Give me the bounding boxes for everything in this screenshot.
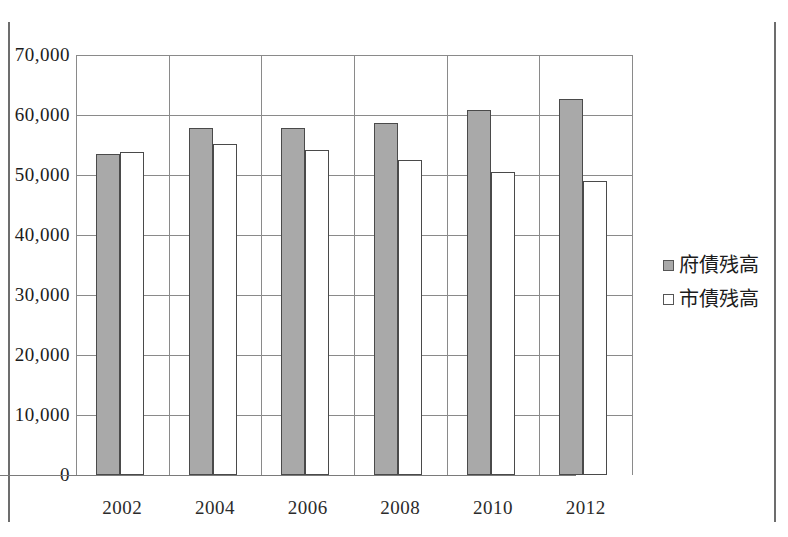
y-tick-label-20000: 20,000	[0, 345, 70, 364]
x-tick-label-2002: 2002	[76, 498, 169, 517]
x-tick-label-2012: 2012	[539, 498, 632, 517]
bar-2004-市債残高	[213, 144, 237, 475]
legend-label: 府債残高	[679, 255, 759, 275]
x-tick-label-2006: 2006	[261, 498, 354, 517]
y-axis-tick-labels: 70,00060,00050,00040,00030,00020,00010,0…	[0, 0, 70, 537]
category-separator	[169, 55, 170, 475]
x-tick-label-2008: 2008	[354, 498, 447, 517]
category-separator	[632, 55, 633, 475]
bar-2002-市債残高	[120, 152, 144, 475]
bar-2006-府債残高	[281, 128, 305, 475]
bar-2004-府債残高	[189, 128, 213, 475]
bar-2002-府債残高	[96, 154, 120, 475]
bar-2008-府債残高	[374, 123, 398, 475]
y-tick-label-40000: 40,000	[0, 225, 70, 244]
bar-2012-市債残高	[583, 181, 607, 475]
legend-label: 市債残高	[679, 289, 759, 309]
scanned-page: 70,00060,00050,00040,00030,00020,00010,0…	[0, 0, 788, 537]
category-separator	[539, 55, 540, 475]
y-tick-label-10000: 10,000	[0, 405, 70, 424]
bar-2012-府債残高	[559, 99, 583, 475]
y-tick-label-30000: 30,000	[0, 285, 70, 304]
x-tick-label-2010: 2010	[447, 498, 540, 517]
category-separator	[261, 55, 262, 475]
bar-2010-市債残高	[491, 172, 515, 475]
x-tick-label-2004: 2004	[169, 498, 262, 517]
category-separator	[354, 55, 355, 475]
y-tick-label-70000: 70,000	[0, 45, 70, 64]
bar-2010-府債残高	[467, 110, 491, 475]
legend-item-1: 府債残高	[663, 248, 773, 282]
legend-item-2: 市債残高	[663, 282, 773, 316]
category-separator	[447, 55, 448, 475]
y-tick-label-50000: 50,000	[0, 165, 70, 184]
page-edge-right-rule	[774, 22, 776, 522]
bar-2008-市債残高	[398, 160, 422, 475]
chart-plot-area	[76, 55, 632, 475]
legend-swatch-icon	[663, 260, 674, 271]
legend-swatch-icon	[663, 294, 674, 305]
y-tick-label-60000: 60,000	[0, 105, 70, 124]
x-axis-baseline	[0, 475, 576, 476]
chart-legend: 府債残高市債残高	[663, 248, 773, 316]
bar-2006-市債残高	[305, 150, 329, 475]
